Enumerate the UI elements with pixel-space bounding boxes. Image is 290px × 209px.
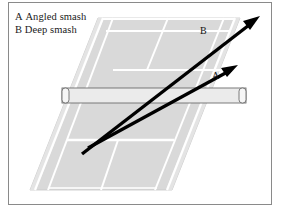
- legend-label-a: Angled smash: [25, 11, 86, 22]
- net-band: [62, 88, 246, 103]
- legend: A Angled smash B Deep smash: [15, 11, 86, 37]
- net-post-right: [239, 88, 246, 103]
- net: [62, 88, 246, 103]
- figure-container: A Angled smash B Deep smash A B: [0, 0, 290, 209]
- net-post-left: [62, 88, 69, 103]
- legend-key-a: A: [15, 11, 23, 22]
- legend-item-a: A Angled smash: [15, 11, 86, 24]
- shot-label-a: A: [212, 70, 219, 81]
- shot-label-b: B: [200, 25, 207, 36]
- legend-label-b: Deep smash: [25, 24, 77, 35]
- legend-item-b: B Deep smash: [15, 24, 86, 37]
- court-surface: [30, 18, 240, 190]
